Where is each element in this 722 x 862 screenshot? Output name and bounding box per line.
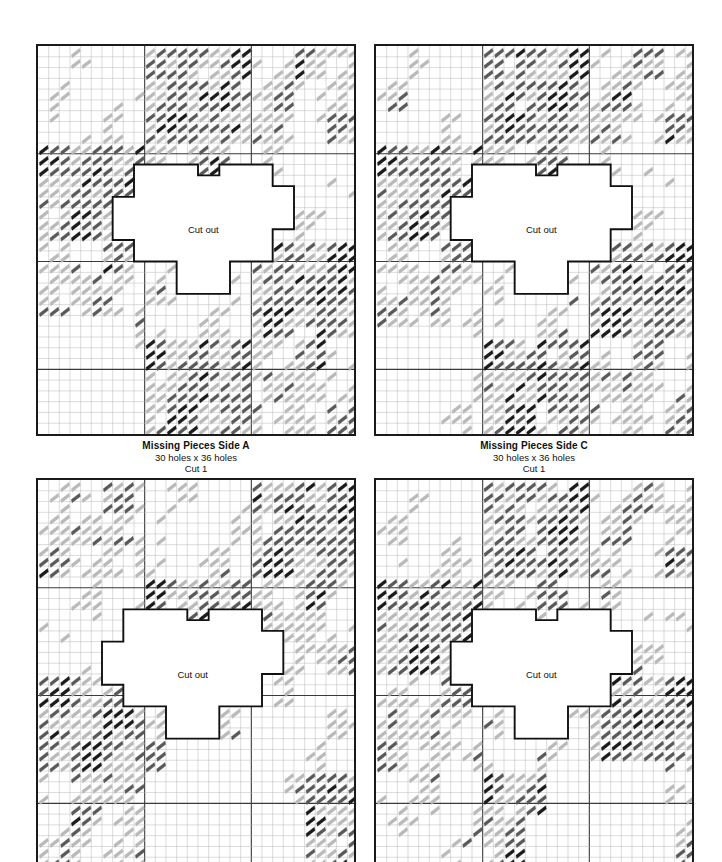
caption-side-c: Missing Pieces Side C 30 holes x 36 hole…	[374, 440, 694, 474]
caption-title: Missing Pieces Side C	[374, 440, 694, 452]
stitch-chart-side-d[interactable]: Cut out	[374, 478, 694, 862]
cutout-label: Cut out	[177, 669, 208, 680]
stitch-chart-side-b[interactable]: Cut out	[36, 478, 356, 862]
caption-size: 30 holes x 36 holes	[36, 452, 356, 463]
caption-side-a: Missing Pieces Side A 30 holes x 36 hole…	[36, 440, 356, 474]
panel-side-d: Cut out	[374, 478, 694, 862]
cutout-label: Cut out	[188, 224, 219, 235]
chart-canvas: Cut out	[38, 46, 356, 434]
cutout-label: Cut out	[526, 224, 557, 235]
panel-side-a: Cut out Missing Pieces Side A 30 holes x…	[36, 44, 356, 474]
caption-title: Missing Pieces Side A	[36, 440, 356, 452]
cutout-label: Cut out	[526, 669, 557, 680]
pattern-sheet: Cut out Missing Pieces Side A 30 holes x…	[0, 0, 722, 862]
chart-canvas: Cut out	[376, 46, 694, 434]
chart-canvas: Cut out	[376, 480, 694, 862]
caption-cut: Cut 1	[374, 463, 694, 474]
caption-size: 30 holes x 36 holes	[374, 452, 694, 463]
panel-side-b: Cut out	[36, 478, 356, 862]
panel-side-c: Cut out Missing Pieces Side C 30 holes x…	[374, 44, 694, 474]
stitch-chart-side-c[interactable]: Cut out	[374, 44, 694, 436]
caption-cut: Cut 1	[36, 463, 356, 474]
chart-canvas: Cut out	[38, 480, 356, 862]
stitch-chart-side-a[interactable]: Cut out	[36, 44, 356, 436]
